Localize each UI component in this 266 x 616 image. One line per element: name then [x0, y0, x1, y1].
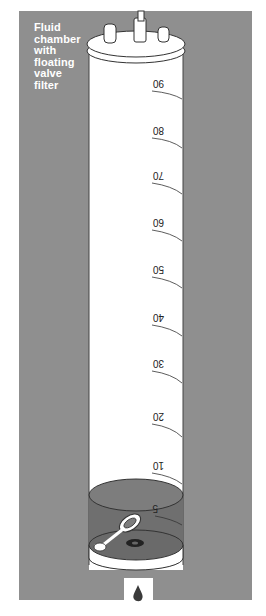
svg-text:10: 10 — [152, 460, 164, 471]
cap-knob-right — [158, 27, 169, 42]
fluid-surface — [89, 479, 183, 511]
svg-text:20: 20 — [152, 411, 164, 422]
svg-text:90: 90 — [152, 78, 164, 89]
svg-text:60: 60 — [152, 217, 164, 228]
svg-text:5: 5 — [152, 503, 158, 514]
svg-text:50: 50 — [152, 264, 164, 275]
svg-text:30: 30 — [152, 358, 164, 369]
svg-text:70: 70 — [152, 170, 164, 181]
svg-text:80: 80 — [152, 125, 164, 136]
cap-knob-left — [104, 24, 116, 43]
svg-text:40: 40 — [152, 312, 164, 323]
fluid-chamber-diagram: 90 80 70 60 50 40 30 20 — [0, 0, 266, 616]
inlet-tube — [134, 18, 146, 42]
